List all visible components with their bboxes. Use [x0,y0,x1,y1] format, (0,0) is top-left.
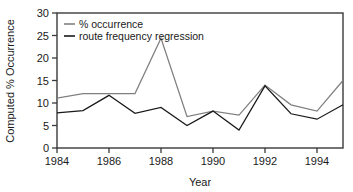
chart-figure: 051015202530 198419861988199019921994 % … [0,0,353,192]
y-tick-label: 20 [37,52,49,64]
x-tick-label: 1986 [97,155,121,167]
chart-legend: % occurrenceroute frequency regression [64,18,204,42]
x-tick-label: 1988 [149,155,173,167]
y-axis-ticks: 051015202530 [37,7,57,154]
x-tick-label: 1994 [305,155,329,167]
x-axis-ticks: 198419861988199019921994 [45,148,329,167]
legend-label: % occurrence [79,18,143,30]
y-tick-label: 5 [43,120,49,132]
y-tick-label: 0 [43,142,49,154]
series-line-route-frequency-regression [57,86,343,130]
series-line--occurrence [57,38,343,116]
y-tick-label: 15 [37,75,49,87]
data-series-group [57,38,343,130]
y-tick-label: 25 [37,30,49,42]
y-tick-label: 30 [37,7,49,19]
legend-label: route frequency regression [79,30,204,42]
x-tick-label: 1992 [253,155,277,167]
y-tick-label: 10 [37,97,49,109]
y-axis-title: Computed % Occurrence [4,19,16,143]
x-axis-title: Year [189,176,212,188]
x-tick-label: 1990 [201,155,225,167]
x-tick-label: 1984 [45,155,69,167]
line-chart: 051015202530 198419861988199019921994 % … [0,0,353,192]
